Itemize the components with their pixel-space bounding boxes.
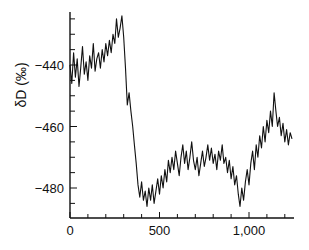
y-axis-title: δD (‰) [13, 62, 29, 107]
x-tick-label: 1,000 [233, 223, 266, 238]
x-tick-label: 0 [66, 223, 73, 238]
data-series-line [70, 16, 292, 207]
y-axis-tick-labels: −440−460−480 [35, 58, 64, 196]
y-tick-label: −440 [35, 58, 64, 73]
chart: −440−460−480 05001,000 δD (‰) [0, 0, 309, 250]
x-axis-ticks [70, 212, 285, 218]
y-tick-label: −460 [35, 120, 64, 135]
x-tick-label: 500 [149, 223, 171, 238]
y-tick-label: −480 [35, 181, 64, 196]
plot-area [70, 16, 292, 207]
x-axis-tick-labels: 05001,000 [66, 223, 265, 238]
y-axis-ticks [70, 19, 77, 204]
